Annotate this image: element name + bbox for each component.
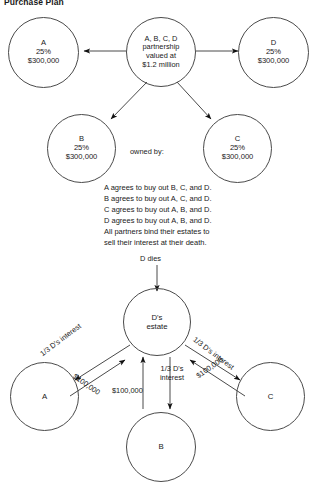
partnership-node[interactable]: A, B, C, D partnership valued at $1.2 mi… [126,17,196,87]
d-estate-line-1: estate [146,322,167,331]
center-interest-line-0: 1/3 D's [161,364,184,373]
center-interest-label: 1/3 D's interest [149,364,195,382]
page-title: Purchase Plan [4,0,64,7]
agreement-text-block: A agrees to buy out B, C, and D. B agree… [104,182,212,249]
d-estate-line-0: D's [151,313,162,322]
buyer-a-label: A [42,392,47,401]
partner-b-node[interactable]: B 25% $300,000 [47,114,116,183]
buyer-c-label: C [268,392,274,401]
buyer-b-label: B [158,442,163,451]
right-money-label: $100,000 [194,355,224,380]
buyer-b-node[interactable]: B [126,412,196,482]
agreement-line-4: All partners bind their estates to [104,226,212,237]
center-interest-line-1: interest [160,373,184,382]
partner-c-node[interactable]: C 25% $300,000 [203,114,272,183]
center-money-label: $100,000 [112,386,143,395]
buyer-c-node[interactable]: C [236,362,305,431]
owned-by-label: owned by: [130,147,164,156]
agreement-line-1: B agrees to buy out A, C, and D. [104,193,212,204]
agreement-line-3: D agrees to buy out A, B, and D. [104,215,212,226]
partner-a-node[interactable]: A 25% $300,000 [8,17,79,88]
d-dies-label: D dies [140,254,161,263]
agreement-line-5: sell their interest at their death. [104,237,212,248]
partner-b-line-2: $300,000 [66,153,98,162]
d-estate-node[interactable]: D's estate [123,288,191,356]
partner-a-line-2: $300,000 [28,57,60,66]
buyer-a-node[interactable]: A [10,362,79,431]
partner-d-line-2: $300,000 [258,57,290,66]
partner-d-node[interactable]: D 25% $300,000 [238,17,309,88]
partnership-line-3: $1.2 million [142,61,179,70]
left-interest-label: 1/3 D's interest [38,321,83,358]
agreement-line-0: A agrees to buy out B, C, and D. [104,182,212,193]
partner-c-line-2: $300,000 [222,153,254,162]
agreement-line-2: C agrees to buy out A, B, and D. [104,204,212,215]
